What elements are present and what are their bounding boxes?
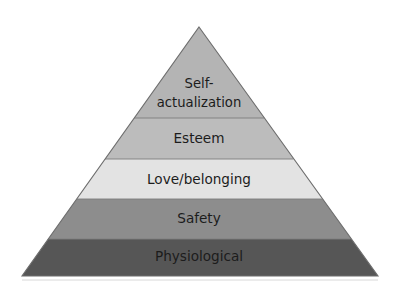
pyramid-diagram: Self- actualization Esteem Love/belongin… bbox=[0, 0, 404, 292]
tier-label-self-actualization-line1: Self- bbox=[185, 76, 214, 91]
tier-label-esteem: Esteem bbox=[174, 130, 225, 146]
tier-label-self-actualization-line2: actualization bbox=[157, 95, 242, 110]
tier-label-safety: Safety bbox=[177, 210, 220, 226]
pyramid-tiers-group bbox=[0, 27, 404, 276]
tier-label-love-belonging: Love/belonging bbox=[147, 171, 251, 187]
pyramid-svg-canvas: Self- actualization Esteem Love/belongin… bbox=[0, 0, 404, 292]
tier-label-physiological: Physiological bbox=[155, 248, 243, 264]
